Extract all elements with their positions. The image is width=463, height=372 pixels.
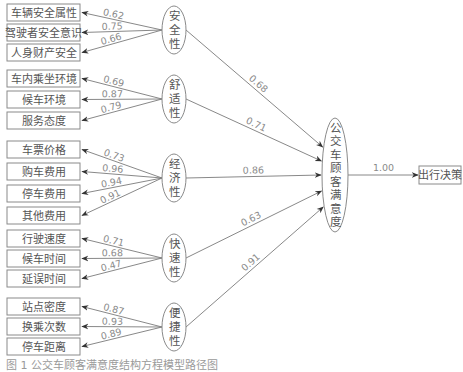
loading-coefficient: 0.47 xyxy=(99,257,122,273)
loading-coefficient: 0.79 xyxy=(99,99,122,115)
structural-path-arrow xyxy=(186,99,321,161)
loading-coefficient: 0.71 xyxy=(102,233,125,249)
loading-coefficient: 0.87 xyxy=(102,301,125,317)
path-coefficient: 0.71 xyxy=(244,115,268,134)
indicator-label: 候车环境 xyxy=(22,93,66,107)
indicator-label: 车票价格 xyxy=(22,143,66,157)
structural-path-arrow xyxy=(186,207,323,327)
latent-factor-label: 经济性 xyxy=(169,157,181,199)
path-coefficient: 0.86 xyxy=(243,164,264,175)
path-coefficient: 0.91 xyxy=(239,251,262,273)
indicator-label: 候车时间 xyxy=(22,252,66,266)
loading-coefficient: 0.68 xyxy=(102,247,123,258)
indicator-label: 人身财产安全 xyxy=(11,46,77,60)
indicator-label: 换乘次数 xyxy=(22,320,66,334)
structural-path-arrow xyxy=(186,30,323,147)
path-coefficient: 0.63 xyxy=(239,209,263,228)
nodes-layer: 车辆安全属性驾驶者安全意识人身财产安全安全性车内乘坐环境候车环境服务态度舒适性车… xyxy=(5,4,462,355)
indicator-label: 延误时间 xyxy=(22,273,66,286)
loading-coefficient: 0.94 xyxy=(100,175,123,190)
output-path-coefficient: 1.00 xyxy=(373,162,394,173)
indicator-label: 行驶速度 xyxy=(22,232,66,246)
loading-coefficient: 0.66 xyxy=(99,30,122,46)
central-node-label: 公交车顾客满意度 xyxy=(330,121,342,230)
latent-factor-label: 安全性 xyxy=(169,9,181,51)
loading-coefficient: 0.87 xyxy=(102,88,123,99)
indicator-label: 车辆安全属性 xyxy=(11,6,77,20)
loading-coefficient: 0.62 xyxy=(102,6,125,21)
output-decision-label: 出行决策 xyxy=(418,168,462,182)
loading-coefficient: 0.89 xyxy=(100,326,123,342)
indicator-label: 车内乘坐环境 xyxy=(11,72,77,86)
loading-coefficient: 0.96 xyxy=(102,162,124,175)
indicator-label: 驾驶者安全意识 xyxy=(5,26,82,40)
latent-factor-label: 舒适性 xyxy=(169,78,181,120)
indicator-label: 服务态度 xyxy=(22,114,66,128)
indicator-label: 购车费用 xyxy=(22,165,66,179)
edges-layer xyxy=(82,13,418,347)
loading-coefficient: 0.75 xyxy=(101,20,122,32)
indicator-label: 其他费用 xyxy=(22,210,66,223)
indicator-label: 停车距离 xyxy=(22,340,66,354)
indicator-label: 停车费用 xyxy=(22,187,66,201)
structural-path-arrow xyxy=(186,191,322,258)
path-coefficient: 0.68 xyxy=(247,73,270,95)
indicator-label: 站点密度 xyxy=(22,300,66,314)
latent-factor-label: 快速性 xyxy=(169,237,181,279)
coefficient-labels-layer: 0.620.750.660.680.690.870.790.710.730.96… xyxy=(98,6,394,341)
latent-factor-label: 便捷性 xyxy=(169,306,181,348)
figure-caption: 图 1 公交车顾客满意度结构方程模型路径图 xyxy=(6,356,218,372)
loading-coefficient: 0.69 xyxy=(102,73,125,89)
